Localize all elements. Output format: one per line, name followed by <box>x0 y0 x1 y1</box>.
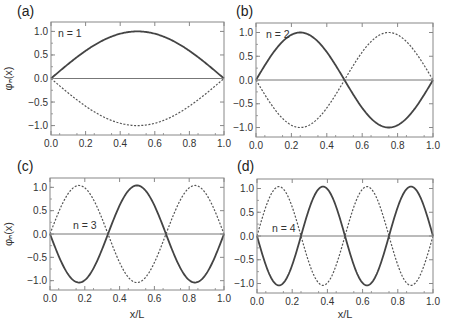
x-tick-label: 0.0 <box>250 296 264 307</box>
y-tick-label: −1.0 <box>233 122 253 133</box>
x-tick-label: 0.2 <box>284 140 298 151</box>
y-tick-label: −1.0 <box>234 278 254 289</box>
x-tick-label: 0.0 <box>44 138 58 149</box>
x-tick-label: 0.6 <box>148 138 162 149</box>
y-tick-label: 1.0 <box>33 182 47 193</box>
y-tick-label: 0.5 <box>240 207 254 218</box>
panel-b: (b)0.00.20.40.60.81.01.00.50.0−0.5−1.0n … <box>233 3 440 151</box>
n-annotation: n = 4 <box>272 222 296 234</box>
y-tick-label: −0.5 <box>233 98 253 109</box>
y-tick-label: 0.5 <box>33 205 47 216</box>
dashed-curve <box>51 79 224 126</box>
panel-c: (c)0.00.20.40.60.81.01.00.50.0−0.5−1.0n … <box>2 158 231 320</box>
y-tick-label: 0.0 <box>239 75 253 86</box>
y-tick-label: 0.0 <box>33 229 47 240</box>
x-tick-label: 1.0 <box>426 296 440 307</box>
x-axis-label: x/L <box>338 308 353 320</box>
y-tick-label: 0.0 <box>240 231 254 242</box>
x-tick-label: 0.4 <box>113 138 127 149</box>
x-tick-label: 0.8 <box>391 140 405 151</box>
x-tick-label: 0.4 <box>320 140 334 151</box>
x-tick-label: 0.2 <box>79 138 93 149</box>
panel-label: (d) <box>237 158 254 174</box>
panel-a: (a)0.00.20.40.60.81.01.00.50.0−0.5−1.0n … <box>2 3 231 149</box>
x-tick-label: 0.2 <box>78 293 92 304</box>
panel-d: (d)0.00.20.40.60.81.01.00.50.0−0.5−1.0n … <box>234 158 440 320</box>
y-tick-label: −0.5 <box>234 254 254 265</box>
x-tick-label: 0.6 <box>356 296 370 307</box>
x-tick-label: 0.0 <box>249 140 263 151</box>
y-tick-label: −0.5 <box>28 97 48 108</box>
x-tick-label: 0.0 <box>43 293 57 304</box>
y-tick-label: 1.0 <box>239 27 253 38</box>
y-tick-label: −1.0 <box>27 275 47 286</box>
n-annotation: n = 1 <box>58 27 82 39</box>
x-tick-label: 0.8 <box>182 293 196 304</box>
x-tick-label: 1.0 <box>426 140 440 151</box>
y-axis-label: φₙ(x) <box>2 67 14 91</box>
y-tick-label: 1.0 <box>34 26 48 37</box>
y-tick-label: −0.5 <box>27 252 47 263</box>
panel-label: (b) <box>236 3 253 19</box>
n-annotation: n = 3 <box>73 219 97 231</box>
x-tick-label: 1.0 <box>217 138 231 149</box>
x-axis-label: x/L <box>130 308 145 320</box>
x-tick-label: 0.8 <box>182 138 196 149</box>
y-tick-label: 0.0 <box>34 73 48 84</box>
x-tick-label: 1.0 <box>217 293 231 304</box>
x-tick-label: 0.8 <box>391 296 405 307</box>
x-tick-label: 0.6 <box>147 293 161 304</box>
y-tick-label: 0.5 <box>239 51 253 62</box>
x-tick-label: 0.4 <box>320 296 334 307</box>
y-tick-label: 0.5 <box>34 49 48 60</box>
figure: (a)0.00.20.40.60.81.01.00.50.0−0.5−1.0n … <box>0 0 454 335</box>
n-annotation: n = 2 <box>266 28 290 40</box>
x-tick-label: 0.6 <box>355 140 369 151</box>
panel-label: (a) <box>17 3 34 19</box>
y-axis-label: φₙ(x) <box>2 222 14 246</box>
x-tick-label: 0.4 <box>113 293 127 304</box>
y-tick-label: −1.0 <box>28 120 48 131</box>
y-tick-label: 1.0 <box>240 183 254 194</box>
x-tick-label: 0.2 <box>285 296 299 307</box>
panel-label: (c) <box>17 158 33 174</box>
